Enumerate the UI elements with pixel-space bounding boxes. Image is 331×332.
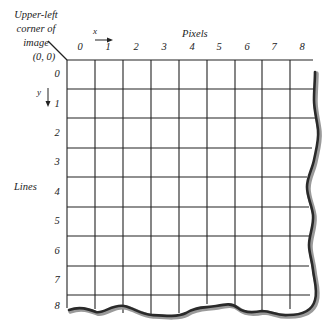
origin-label: (0, 0) [33,52,56,63]
torn-edge [69,72,318,316]
y-variable-label: y [37,88,41,97]
y-tick: 0 [54,69,59,80]
x-tick: 4 [189,42,194,53]
x-tick: 3 [161,42,166,53]
x-tick: 7 [271,42,276,53]
image-coordinate-diagram: Upper-left corner of image (0, 0) Pixels… [0,0,331,332]
x-tick: 2 [133,42,138,53]
x-axis-title: Pixels [182,29,208,40]
y-tick: 7 [54,275,59,286]
x-tick: 5 [216,42,221,53]
x-variable-label: x [93,27,97,36]
y-tick: 2 [54,128,59,139]
x-tick: 6 [244,42,249,53]
y-arrow-icon [46,88,51,107]
pixel-grid [67,60,316,314]
x-tick: 1 [105,42,110,53]
y-tick: 3 [54,157,59,168]
y-axis-title: Lines [14,182,37,193]
y-tick: 6 [54,246,59,257]
torn-edge-shadow [71,74,320,318]
upper-left-corner-annotation: Upper-left corner of image [0,8,72,50]
annotation-line-1: Upper-left [0,8,72,22]
annotation-line-3: image [0,36,72,50]
y-tick: 8 [54,301,59,312]
y-tick: 1 [54,99,59,110]
x-tick: 8 [299,42,304,53]
annotation-line-2: corner of [0,22,72,36]
y-tick: 5 [54,216,59,227]
y-tick: 4 [54,187,59,198]
x-tick: 0 [77,42,82,53]
